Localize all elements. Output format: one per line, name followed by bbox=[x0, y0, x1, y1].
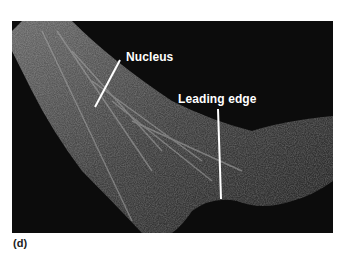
panel-label: (d) bbox=[13, 237, 27, 249]
nucleus-label: Nucleus bbox=[126, 50, 173, 64]
micrograph-panel: Nucleus Leading edge bbox=[12, 21, 333, 233]
leading-edge-label: Leading edge bbox=[178, 92, 257, 106]
